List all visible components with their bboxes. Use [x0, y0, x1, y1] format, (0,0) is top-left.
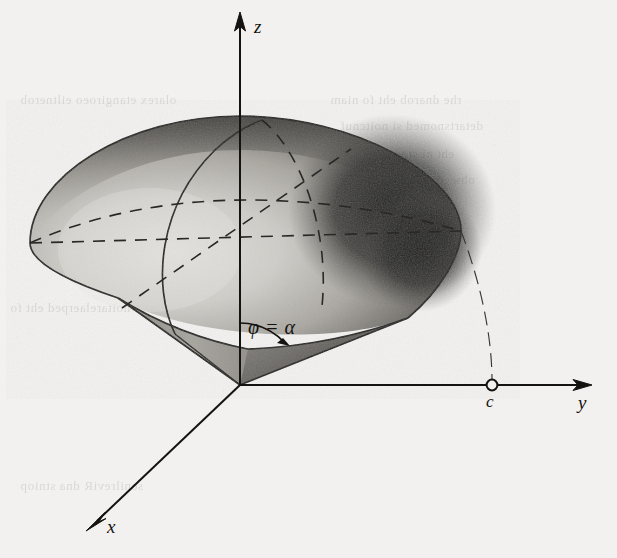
axis-x-arrowhead — [86, 513, 106, 532]
point-c-marker — [487, 380, 498, 391]
solid-of-revolution-diagram — [0, 0, 617, 558]
sphere-cap-shadow-lobe-2 — [358, 188, 482, 312]
sphere-cap-highlight — [58, 188, 242, 312]
axis-label-x: x — [107, 516, 115, 538]
solid-body — [30, 114, 496, 385]
point-label-c: c — [486, 392, 494, 412]
figure-canvas: olarex etangiroeo eiltnerob rhe dnarob e… — [0, 0, 617, 558]
axis-label-z: z — [254, 16, 261, 38]
angle-label-phi-alpha: φ = α — [248, 316, 296, 339]
axis-x-line — [97, 385, 240, 521]
angle-arc-arrowhead — [277, 338, 290, 346]
axis-label-y: y — [578, 392, 586, 414]
